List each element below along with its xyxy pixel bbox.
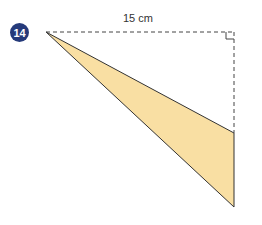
triangle-diagram [0,0,262,225]
right-angle-marker [226,32,234,39]
shaded-triangle [46,32,234,207]
